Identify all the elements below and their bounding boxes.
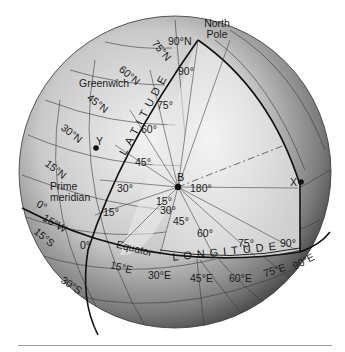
lat-angle-45: 45° <box>135 157 151 168</box>
lon-angle-75: 75° <box>238 238 254 249</box>
lat-angle-15: 15° <box>103 207 119 218</box>
greenwich-label: Greenwich <box>79 78 129 89</box>
bottom-divider <box>18 345 332 346</box>
lon-angle-90: 90° <box>280 238 296 249</box>
point-x-marker <box>298 179 304 185</box>
lon-angle-30: 30° <box>160 205 176 216</box>
point-x-label: X <box>290 177 297 188</box>
lat-angle-60: 60° <box>141 124 157 135</box>
north-pole-label: North Pole <box>199 18 235 39</box>
angle-180-label: 180° <box>190 183 212 194</box>
point-b-label: B <box>177 172 184 183</box>
lat-angle-75: 75° <box>157 100 173 111</box>
lon-0-label: 0° <box>80 240 90 251</box>
lat-angle-30: 30° <box>117 183 133 194</box>
point-b-marker <box>175 184 181 190</box>
lon-60e-label: 60°E <box>229 273 252 284</box>
prime-meridian-label: Prime meridian <box>50 181 90 202</box>
globe-figure: North Pole 90°N 75°N 60°N Greenwich 45°N… <box>0 0 345 352</box>
lon-30e-label: 30°E <box>148 270 171 281</box>
lon-45e-label: 45°E <box>190 273 213 284</box>
lat-angle-90: 90° <box>178 66 194 77</box>
lat-90n-label: 90°N <box>168 36 191 47</box>
lon-angle-45: 45° <box>173 216 189 227</box>
lon-angle-60: 60° <box>197 228 213 239</box>
point-y-label: Y <box>96 136 103 147</box>
